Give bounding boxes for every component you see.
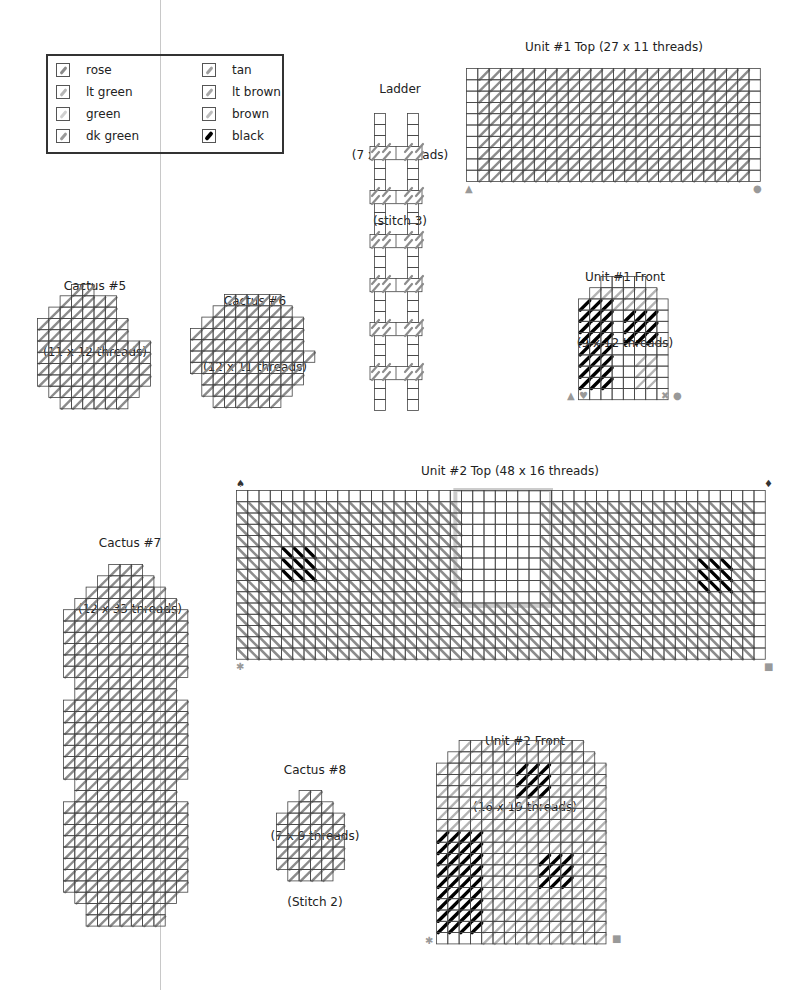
legend-item-tan: tan (202, 60, 252, 80)
unit1-front-chart (578, 276, 670, 400)
legend-item-black: black (202, 126, 264, 146)
asterisk-marker-icon: ✱ (236, 662, 244, 672)
stitch-swatch-icon (56, 129, 70, 143)
legend-label: dk green (86, 129, 139, 143)
piece-note: (Stitch 2) (260, 891, 370, 913)
stitch-swatch-icon (202, 85, 216, 99)
legend-item-green: green (56, 104, 121, 124)
legend-label: brown (232, 107, 269, 121)
stitch-swatch-icon (56, 107, 70, 121)
legend-item-lt-brown: lt brown (202, 82, 281, 102)
legend-item-rose: rose (56, 60, 112, 80)
square-marker-icon: ■ (612, 934, 621, 944)
legend-label: lt green (86, 85, 133, 99)
circle-marker-icon: ● (673, 391, 682, 401)
piece-name: Ladder (340, 78, 460, 100)
unit1-top-chart (466, 68, 764, 183)
cactus8-chart (276, 790, 346, 883)
piece-name: Cactus #7 (60, 532, 200, 554)
stitch-swatch-icon (56, 63, 70, 77)
square-marker-icon: ■ (764, 662, 773, 672)
cross-marker-icon: ✖ (661, 391, 669, 401)
asterisk-marker-icon: ✱ (425, 936, 433, 946)
legend-label: green (86, 107, 121, 121)
piece-name: Cactus #8 (260, 759, 370, 781)
unit2-top-chart (236, 490, 774, 660)
stitch-swatch-icon (202, 129, 216, 143)
spade-marker-icon: ♠ (236, 479, 245, 489)
cactus7-chart (63, 564, 187, 929)
stitch-swatch-icon (56, 85, 70, 99)
unit2-top-title: Unit #2 Top (48 x 16 threads) (350, 460, 670, 482)
legend-label: lt brown (232, 85, 281, 99)
ladder-chart (374, 113, 424, 420)
unit2-front-chart (436, 740, 610, 945)
heart-marker-icon: ♥ (579, 391, 588, 401)
circle-marker-icon: ● (753, 184, 762, 194)
legend-item-brown: brown (202, 104, 269, 124)
cactus5-chart (37, 284, 151, 409)
triangle-marker-icon: ▲ (567, 391, 575, 401)
stitch-swatch-icon (202, 63, 216, 77)
color-legend: rose lt green green dk green tan lt brow… (46, 54, 284, 154)
cactus6-chart (190, 294, 318, 404)
legend-label: tan (232, 63, 252, 77)
legend-label: rose (86, 63, 112, 77)
diamond-marker-icon: ♦ (764, 479, 773, 489)
legend-item-dk-green: dk green (56, 126, 139, 146)
triangle-marker-icon: ▲ (465, 184, 473, 194)
legend-label: black (232, 129, 264, 143)
stitch-swatch-icon (202, 107, 216, 121)
legend-item-lt-green: lt green (56, 82, 133, 102)
unit1-top-title: Unit #1 Top (27 x 11 threads) (464, 36, 764, 58)
